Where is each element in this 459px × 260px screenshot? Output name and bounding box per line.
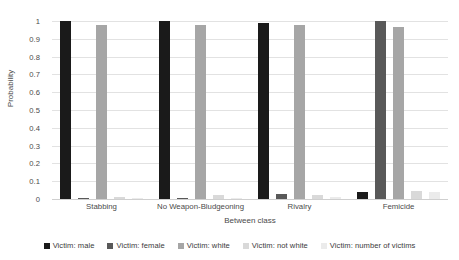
legend-item[interactable]: Victim: number of victims bbox=[321, 241, 416, 250]
bar-group bbox=[151, 21, 250, 199]
bar[interactable] bbox=[177, 198, 188, 199]
bar[interactable] bbox=[114, 197, 125, 199]
bar[interactable] bbox=[312, 195, 323, 199]
bar-slot bbox=[330, 21, 341, 199]
bar[interactable] bbox=[213, 195, 224, 199]
legend-swatch-icon bbox=[178, 243, 184, 249]
legend-item[interactable]: Victim: male bbox=[44, 241, 95, 250]
bar[interactable] bbox=[78, 198, 89, 199]
bar-slot bbox=[312, 21, 323, 199]
y-axis-tick-label: 0.2 bbox=[29, 159, 40, 168]
legend-item[interactable]: Victim: white bbox=[178, 241, 230, 250]
y-axis-tick-label: 0.3 bbox=[29, 141, 40, 150]
bar-slot bbox=[213, 21, 224, 199]
y-axis-tick-label: 0.9 bbox=[29, 34, 40, 43]
bar-group bbox=[52, 21, 151, 199]
legend-label: Victim: female bbox=[116, 241, 164, 250]
bar[interactable] bbox=[231, 198, 242, 199]
legend-label: Victim: number of victims bbox=[330, 241, 416, 250]
probability-bar-chart: Probability 00.10.20.30.40.50.60.70.80.9… bbox=[0, 0, 459, 260]
bar-slot bbox=[231, 21, 242, 199]
bar-slot bbox=[132, 21, 143, 199]
bar[interactable] bbox=[330, 197, 341, 199]
bar[interactable] bbox=[60, 21, 71, 199]
bar-slot bbox=[195, 21, 206, 199]
x-axis-tick-labels: StabbingNo Weapon-BludgeoningRivalryFemi… bbox=[52, 202, 448, 216]
bar-slot bbox=[375, 21, 386, 199]
bar-group bbox=[250, 21, 349, 199]
bar-slot bbox=[276, 21, 287, 199]
y-axis-tick-label: 0.1 bbox=[29, 177, 40, 186]
bar-slot bbox=[258, 21, 269, 199]
y-axis-tick-label: 0.5 bbox=[29, 106, 40, 115]
bar[interactable] bbox=[258, 23, 269, 199]
x-axis-tick-label: Stabbing bbox=[52, 202, 151, 216]
x-axis-tick-label: Rivalry bbox=[250, 202, 349, 216]
legend-label: Victim: male bbox=[53, 241, 95, 250]
bar[interactable] bbox=[411, 191, 422, 199]
legend-item[interactable]: Victim: not white bbox=[243, 241, 308, 250]
bar[interactable] bbox=[132, 198, 143, 199]
gridline bbox=[52, 199, 448, 200]
y-axis-tick-label: 0.7 bbox=[29, 70, 40, 79]
bar[interactable] bbox=[96, 25, 107, 199]
bar-slot bbox=[411, 21, 422, 199]
bar[interactable] bbox=[159, 21, 170, 199]
bar[interactable] bbox=[375, 21, 386, 199]
x-axis-title: Between class bbox=[52, 216, 448, 225]
bar[interactable] bbox=[195, 25, 206, 199]
bar-slot bbox=[294, 21, 305, 199]
bar-slot bbox=[429, 21, 440, 199]
bar[interactable] bbox=[294, 25, 305, 199]
y-axis-tick-label: 0 bbox=[36, 195, 40, 204]
bar[interactable] bbox=[393, 27, 404, 199]
legend-item[interactable]: Victim: female bbox=[107, 241, 164, 250]
bar-slot bbox=[177, 21, 188, 199]
y-axis-tick-label: 0.4 bbox=[29, 123, 40, 132]
x-axis-tick-label: Femicide bbox=[349, 202, 448, 216]
legend-swatch-icon bbox=[44, 243, 50, 249]
bar-slot bbox=[357, 21, 368, 199]
y-axis-tick-label: 0.8 bbox=[29, 52, 40, 61]
bar[interactable] bbox=[429, 192, 440, 199]
bar-slot bbox=[393, 21, 404, 199]
bar-group bbox=[349, 21, 448, 199]
bar-slot bbox=[114, 21, 125, 199]
legend-swatch-icon bbox=[243, 243, 249, 249]
bar-slot bbox=[159, 21, 170, 199]
legend-label: Victim: white bbox=[187, 241, 230, 250]
bar-slot bbox=[96, 21, 107, 199]
y-axis-tick-labels: 00.10.20.30.40.50.60.70.80.91 bbox=[0, 21, 46, 199]
bar[interactable] bbox=[357, 192, 368, 199]
legend-label: Victim: not white bbox=[252, 241, 308, 250]
legend-swatch-icon bbox=[321, 243, 327, 249]
x-axis-tick-label: No Weapon-Bludgeoning bbox=[151, 202, 250, 216]
legend-swatch-icon bbox=[107, 243, 113, 249]
bar-groups bbox=[52, 21, 448, 199]
plot-area bbox=[52, 21, 448, 199]
bar-slot bbox=[60, 21, 71, 199]
bar-slot bbox=[78, 21, 89, 199]
bar[interactable] bbox=[276, 194, 287, 199]
y-axis-tick-label: 0.6 bbox=[29, 88, 40, 97]
chart-legend: Victim: maleVictim: femaleVictim: whiteV… bbox=[0, 241, 459, 250]
y-axis-tick-label: 1 bbox=[36, 17, 40, 26]
